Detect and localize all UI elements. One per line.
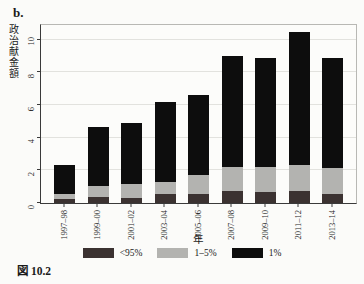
x-tick-mark <box>331 203 332 207</box>
stacked-bar-2011–12 <box>289 32 310 203</box>
bar-segment <box>121 123 142 184</box>
bar-segment <box>188 175 209 194</box>
legend-swatch-black <box>232 248 263 258</box>
legend-label-gray: 1–5% <box>194 248 216 258</box>
x-tick-mark <box>231 203 232 207</box>
figure-10-2: b. 政治献金額 0246810 1997–981999–002001–0220… <box>0 0 364 284</box>
stacked-bar-2003–04 <box>155 102 176 203</box>
legend-item-dark: <95% <box>83 248 143 258</box>
bar-segment <box>222 191 243 203</box>
y-axis-title: 政治献金額 <box>5 24 20 202</box>
legend-label-black: 1% <box>269 248 282 258</box>
stacked-bar-2005–06 <box>188 95 209 203</box>
y-tick-label: 10 <box>27 37 36 46</box>
y-tick-label: 2 <box>27 172 36 176</box>
legend-swatch-dark <box>83 248 114 258</box>
bar-segment <box>322 58 343 168</box>
bar-segment <box>222 167 243 191</box>
x-tick-mark <box>130 203 131 207</box>
bar-segment <box>289 191 310 203</box>
bar-segment <box>255 58 276 167</box>
x-tick-mark <box>164 203 165 207</box>
bar-segment <box>155 102 176 182</box>
stacked-bar-2007–08 <box>222 56 243 203</box>
bar-segment <box>155 182 176 194</box>
y-tick-label: 4 <box>27 139 36 143</box>
plot-area: 0246810 <box>40 24 357 204</box>
bar-segment <box>289 32 310 164</box>
bar-segment <box>155 194 176 203</box>
bar-segment <box>54 165 75 194</box>
stacked-bar-2001–02 <box>121 123 142 203</box>
bar-segment <box>322 168 343 194</box>
x-tick-mark <box>197 203 198 207</box>
stacked-bar-2009–10 <box>255 58 276 203</box>
bar-segment <box>222 56 243 167</box>
bar-segment <box>121 184 142 198</box>
figure-caption: 図 10.2 <box>17 262 51 278</box>
bar-segment <box>255 167 276 192</box>
stacked-bar-2013–14 <box>322 58 343 203</box>
x-tick-mark <box>63 203 64 207</box>
bar-segment <box>322 194 343 203</box>
panel-label: b. <box>13 5 23 21</box>
legend-item-gray: 1–5% <box>157 248 216 258</box>
legend: <95% 1–5% 1% <box>0 248 364 258</box>
bar-segment <box>88 127 109 186</box>
bar-segment <box>255 192 276 203</box>
bar-segment <box>188 194 209 203</box>
x-tick-mark <box>264 203 265 207</box>
legend-swatch-gray <box>157 248 188 258</box>
y-tick-label: 0 <box>27 205 36 209</box>
x-axis-title: 年 <box>40 231 355 246</box>
bar-segment <box>188 95 209 175</box>
stacked-bar-1997–98 <box>54 165 75 203</box>
x-tick-mark <box>97 203 98 207</box>
bar-segment <box>289 165 310 191</box>
y-tick-label: 6 <box>27 107 36 111</box>
y-tick-label: 8 <box>27 74 36 78</box>
bar-segment <box>88 186 109 197</box>
legend-label-dark: <95% <box>120 248 143 258</box>
legend-item-black: 1% <box>232 248 282 258</box>
bar-series <box>41 25 356 203</box>
stacked-bar-1999–00 <box>88 127 109 203</box>
x-tick-mark <box>298 203 299 207</box>
